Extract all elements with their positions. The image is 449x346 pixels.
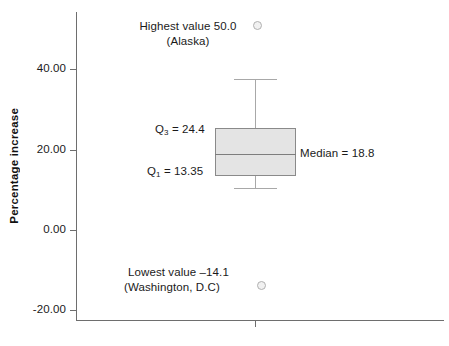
x-tick-mark-category-1 xyxy=(255,321,256,327)
highest-value-label-line1: Highest value 50.0 xyxy=(128,20,248,32)
lower-whisker-stem xyxy=(255,176,256,188)
y-tick-label-40: 40.00 xyxy=(0,62,66,74)
y-tick-label-neg20: -20.00 xyxy=(0,303,66,315)
upper-whisker-cap xyxy=(234,79,277,80)
q3-label-value: = 24.4 xyxy=(169,123,205,135)
boxplot-figure: 40.00 20.00 0.00 -20.00 Percentage incre… xyxy=(0,0,449,346)
q1-label-subscript: 1 xyxy=(156,170,161,179)
median-line xyxy=(215,154,296,155)
box-iqr xyxy=(215,128,296,176)
outlier-marker-lowest xyxy=(257,281,266,290)
highest-value-label-line2: (Alaska) xyxy=(128,35,248,47)
lowest-value-label-line2: (Washington, D.C) xyxy=(124,281,220,293)
q1-label-prefix: Q xyxy=(147,165,156,177)
upper-whisker-stem xyxy=(255,79,256,128)
y-axis-line xyxy=(76,12,77,320)
y-tick-label-0: 0.00 xyxy=(0,223,66,235)
q1-label-value: = 13.35 xyxy=(161,165,204,177)
median-label: Median = 18.8 xyxy=(300,147,375,159)
q3-label-prefix: Q xyxy=(155,123,164,135)
y-tick-mark-20 xyxy=(70,150,77,151)
y-tick-mark-0 xyxy=(70,230,77,231)
outlier-marker-highest xyxy=(253,21,262,30)
x-axis-line xyxy=(76,320,444,321)
y-tick-mark-40 xyxy=(70,69,77,70)
y-tick-mark-neg20 xyxy=(70,310,77,311)
q3-label: Q3 = 24.4 xyxy=(155,123,205,135)
q1-label: Q1 = 13.35 xyxy=(147,165,203,177)
q3-label-subscript: 3 xyxy=(164,128,169,137)
lower-whisker-cap xyxy=(234,188,277,189)
lowest-value-label-line1: Lowest value –14.1 xyxy=(128,266,229,278)
y-axis-title: Percentage increase xyxy=(8,108,26,224)
